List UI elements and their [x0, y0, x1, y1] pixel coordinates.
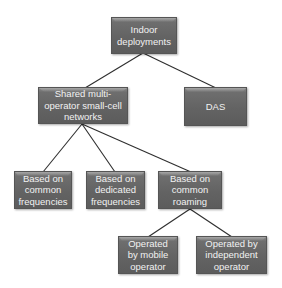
node-label: Shared multi- operator small-cell networ… [44, 88, 122, 123]
node-label: Indoor deployments [117, 24, 171, 47]
node-label: Based on common roaming [170, 173, 210, 208]
node-label: Based on dedicated frequencies [91, 173, 140, 208]
node-dedicated-frequencies: Based on dedicated frequencies [86, 171, 145, 209]
edge-indoor-shared [85, 53, 143, 88]
node-label: Based on common frequencies [18, 173, 67, 208]
edge-roaming-mobile-op [148, 209, 190, 237]
node-indoor-deployments: Indoor deployments [111, 17, 177, 54]
node-common-frequencies: Based on common frequencies [14, 171, 72, 209]
diagram-canvas: Indoor deployments Shared multi- operato… [0, 0, 282, 288]
node-label: Operated by independent operator [205, 238, 257, 273]
node-common-roaming: Based on common roaming [158, 171, 222, 209]
node-label: Operated by mobile operator [128, 238, 169, 273]
edge-indoor-das [143, 53, 216, 88]
node-shared-multi-operator: Shared multi- operator small-cell networ… [38, 87, 128, 124]
node-mobile-operator: Operated by mobile operator [118, 236, 178, 274]
node-independent-operator: Operated by independent operator [196, 236, 267, 274]
node-das: DAS [184, 87, 247, 126]
edge-shared-common-freq [43, 124, 82, 172]
node-label: DAS [206, 101, 226, 113]
edge-roaming-independent-op [190, 209, 232, 237]
